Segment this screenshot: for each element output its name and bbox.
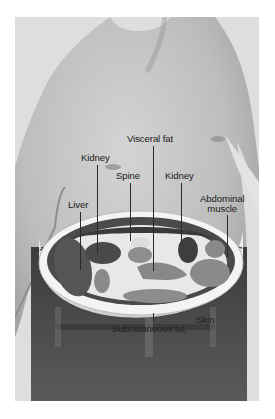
label-spine: Spine xyxy=(116,171,140,181)
leader-abdominal-muscle xyxy=(227,215,228,257)
kidney-left xyxy=(85,242,121,264)
leader-liver xyxy=(80,212,81,270)
label-abdominal-muscle: Abdominal muscle xyxy=(200,194,244,214)
label-kidney-left: Kidney xyxy=(81,153,110,163)
label-kidney-right: Kidney xyxy=(165,171,194,181)
label-visceral-fat: Visceral fat xyxy=(127,134,173,144)
leader-spine xyxy=(130,183,131,241)
illustration-frame: Visceral fat Kidney Spine Kidney Liver A… xyxy=(15,17,259,401)
label-liver: Liver xyxy=(68,200,88,210)
label-subcutaneous-fat: Subcutaneous fat xyxy=(112,324,185,334)
label-skin: Skin xyxy=(196,315,214,325)
leader-kidney-right xyxy=(181,183,182,245)
leader-kidney-left xyxy=(97,165,98,253)
label-abdominal-muscle-line2: muscle xyxy=(207,203,237,214)
leader-visceral-fat xyxy=(153,146,154,271)
leader-subcutaneous-fat xyxy=(153,313,154,322)
